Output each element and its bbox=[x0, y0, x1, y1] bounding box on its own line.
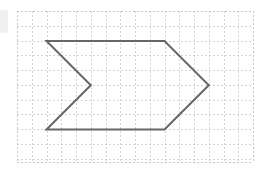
dotted-grid bbox=[17, 11, 254, 163]
grid-canvas bbox=[0, 0, 262, 174]
